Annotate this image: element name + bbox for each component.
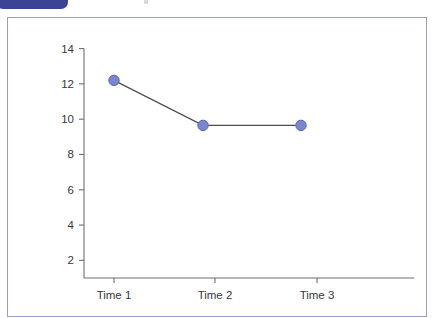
top-strip (0, 0, 441, 16)
x-axis-tick-label: Time 2 (198, 289, 233, 301)
y-axis-tick-label: 4 (68, 219, 75, 231)
y-axis-tick-label: 6 (68, 184, 74, 196)
data-point-marker[interactable] (296, 120, 306, 130)
y-axis-tick-label: 14 (61, 43, 74, 55)
x-axis-tick-label: Time 1 (97, 289, 132, 301)
data-point-marker[interactable] (198, 120, 208, 130)
y-axis-tick-label: 2 (68, 254, 74, 266)
blue-tab-icon[interactable] (0, 0, 68, 9)
y-axis-tick-label: 12 (61, 78, 74, 90)
faint-artifact-mark (144, 0, 148, 4)
y-axis-tick-label: 8 (68, 148, 74, 160)
line-chart: 2468101214Time 1Time 2Time 3 (8, 18, 428, 318)
y-axis-tick-label: 10 (61, 113, 74, 125)
chart-frame: 2468101214Time 1Time 2Time 3 (7, 17, 427, 317)
data-point-marker[interactable] (109, 75, 119, 85)
series-line (114, 80, 301, 125)
x-axis-tick-label: Time 3 (300, 289, 335, 301)
